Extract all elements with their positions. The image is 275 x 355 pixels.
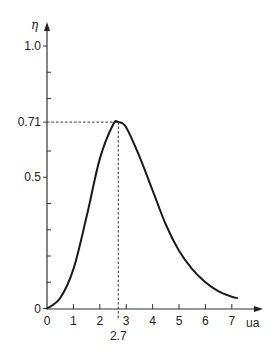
axes (44, 22, 263, 312)
x-tick-label: 4 (149, 314, 156, 328)
peak-guides: 2.7 (47, 122, 127, 343)
y-tick-label: 0.5 (24, 170, 41, 184)
x-tick-label: 1 (70, 314, 77, 328)
y-tick-label: 1.0 (24, 39, 41, 53)
y-tick-label: 0.71 (18, 115, 42, 129)
x-tick-label: 0 (44, 314, 51, 328)
efficiency-curve (47, 121, 237, 309)
x-axis-label: ua (246, 316, 260, 330)
y-axis-label: η (31, 18, 39, 32)
x-tick-label: 6 (202, 314, 209, 328)
peak-x-label: 2.7 (110, 329, 127, 343)
x-ticks: 01234567 (44, 304, 236, 328)
y-axis-arrow-icon (44, 22, 50, 31)
x-tick-label: 7 (228, 314, 235, 328)
x-tick-label: 2 (96, 314, 103, 328)
efficiency-chart: 01234567 00.50.711.0 2.7 η ua (0, 0, 275, 355)
y-ticks: 00.50.711.0 (18, 39, 51, 316)
x-tick-label: 3 (123, 314, 130, 328)
x-axis-arrow-icon (254, 306, 263, 312)
x-tick-label: 5 (176, 314, 183, 328)
y-tick-label: 0 (34, 302, 41, 316)
